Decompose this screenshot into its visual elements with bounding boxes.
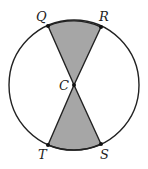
- point-c: [72, 83, 76, 87]
- geometry-diagram: Q R C T S: [0, 0, 148, 169]
- label-c: C: [59, 78, 69, 93]
- point-s: [99, 142, 103, 146]
- label-s: S: [100, 147, 109, 162]
- label-r: R: [98, 9, 109, 24]
- shaded-sector-tcs: [48, 85, 101, 150]
- label-q: Q: [36, 9, 47, 24]
- label-t: T: [38, 147, 48, 162]
- point-q: [46, 24, 50, 28]
- shaded-sector-qcr: [48, 21, 101, 85]
- point-r: [99, 25, 103, 29]
